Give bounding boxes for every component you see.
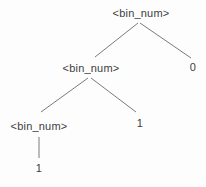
edge-binnum2-to-leaf1mid — [91, 78, 136, 112]
tree-node-bin-num-2: <bin_num> — [63, 62, 120, 74]
edge-root-to-leaf0 — [140, 23, 191, 58]
tree-leaf-1-bottom: 1 — [36, 162, 42, 174]
edge-root-to-binnum2 — [95, 23, 138, 57]
tree-node-root: <bin_num> — [113, 7, 170, 19]
tree-edges — [0, 0, 206, 187]
tree-node-bin-num-3: <bin_num> — [11, 120, 68, 132]
edge-binnum2-to-binnum3 — [41, 78, 88, 112]
tree-leaf-0: 0 — [190, 61, 196, 73]
tree-leaf-1-middle: 1 — [137, 117, 143, 129]
parse-tree-diagram: <bin_num> <bin_num> 0 <bin_num> 1 1 — [0, 0, 206, 187]
